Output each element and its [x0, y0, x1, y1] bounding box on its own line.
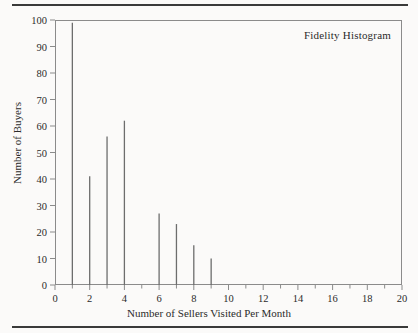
x-tick-label: 6 [156, 293, 161, 304]
bottom-rule [12, 326, 408, 328]
y-axis-title: Number of Buyers [11, 63, 23, 223]
y-tick-label: 0 [9, 280, 47, 291]
x-tick-label: 10 [223, 293, 234, 304]
plot-frame: Fidelity Histogram [55, 20, 402, 285]
x-tick-label: 18 [362, 293, 373, 304]
figure: Fidelity Histogram 010203040506070809010… [0, 0, 418, 333]
top-rule [12, 4, 408, 6]
y-tick-label: 20 [9, 227, 47, 238]
x-tick-label: 4 [122, 293, 127, 304]
x-tick-label: 16 [327, 293, 338, 304]
x-tick-marks [55, 285, 402, 290]
y-tick-label: 10 [9, 253, 47, 264]
x-tick-label: 14 [293, 293, 304, 304]
x-tick-label: 2 [87, 293, 92, 304]
x-tick-label: 0 [52, 293, 57, 304]
y-tick-label: 100 [9, 15, 47, 26]
x-tick-label: 8 [191, 293, 196, 304]
y-tick-label: 90 [9, 41, 47, 52]
x-tick-label: 20 [397, 293, 408, 304]
chart-title: Fidelity Histogram [304, 29, 391, 41]
x-tick-label: 12 [258, 293, 269, 304]
x-axis-title: Number of Sellers Visited Per Month [0, 307, 418, 319]
